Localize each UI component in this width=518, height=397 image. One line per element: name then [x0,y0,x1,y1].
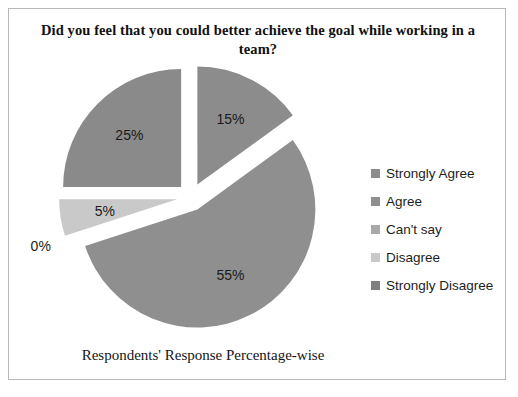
legend-item[interactable]: Agree [371,187,501,215]
chart-caption: Respondents' Response Percentage-wise [33,347,373,364]
legend-item[interactable]: Can't say [371,215,501,243]
legend-item-label: Can't say [386,222,442,237]
legend-swatch-icon [371,197,380,206]
legend-item-label: Agree [386,194,422,209]
chart-legend: Strongly AgreeAgreeCan't sayDisagreeStro… [371,159,501,299]
pie-slice-label: 5% [95,203,115,219]
legend-item-label: Strongly Disagree [386,278,493,293]
pie-slices-group [59,67,315,328]
chart-title: Did you feel that you could better achie… [33,21,483,59]
legend-swatch-icon [371,253,380,262]
pie-chart-area: 15%55%0%5%25% [19,64,359,349]
legend-item-label: Strongly Agree [386,166,475,181]
legend-item[interactable]: Strongly Disagree [371,271,501,299]
legend-item-label: Disagree [386,250,440,265]
pie-chart-svg: 15%55%0%5%25% [19,64,359,349]
legend-item[interactable]: Disagree [371,243,501,271]
pie-slice-label: 55% [217,267,245,283]
legend-swatch-icon [371,225,380,234]
legend-swatch-icon [371,169,380,178]
pie-slice-label: 15% [217,111,245,127]
chart-frame: Did you feel that you could better achie… [8,8,506,380]
legend-item[interactable]: Strongly Agree [371,159,501,187]
pie-slice-label: 0% [31,238,51,254]
legend-swatch-icon [371,281,380,290]
pie-slice-label: 25% [115,127,143,143]
